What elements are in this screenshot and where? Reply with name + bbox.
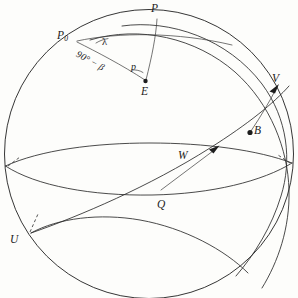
label-point-Q: Q bbox=[157, 199, 165, 211]
point-B-dot bbox=[247, 130, 252, 135]
label-point-B: B bbox=[254, 125, 261, 137]
vector-W-shaft bbox=[161, 148, 217, 190]
arc-P-to-E bbox=[146, 19, 157, 80]
equator-back-arc bbox=[6, 143, 293, 166]
sphere-diagram-canvas bbox=[0, 0, 298, 298]
label-angle-lambda: λ bbox=[102, 37, 107, 48]
label-angle-p: p bbox=[131, 62, 136, 72]
meridian-through-P bbox=[122, 25, 287, 276]
label-pole-P0: P0 bbox=[57, 30, 68, 42]
label-pole-P: P bbox=[151, 3, 158, 15]
point-E-dot bbox=[143, 79, 147, 83]
label-point-U: U bbox=[10, 234, 18, 246]
label-point-E: E bbox=[141, 86, 148, 98]
label-point-V: V bbox=[272, 73, 279, 85]
label-pole-P0-letter: P bbox=[57, 29, 64, 41]
ecliptic-front-arc bbox=[31, 86, 289, 233]
tick-near-U-dashed bbox=[30, 214, 38, 232]
ecliptic-lower-return-arc bbox=[31, 217, 248, 273]
celestial-sphere-figure: P P0 E V B W Q U λ p 90° − β bbox=[0, 0, 298, 298]
label-vector-W: W bbox=[178, 150, 188, 162]
tick-left-dashed bbox=[8, 157, 20, 166]
sphere-outline bbox=[5, 10, 294, 298]
label-pole-P0-subscript: 0 bbox=[64, 34, 68, 43]
equator-front-arc bbox=[6, 163, 293, 195]
